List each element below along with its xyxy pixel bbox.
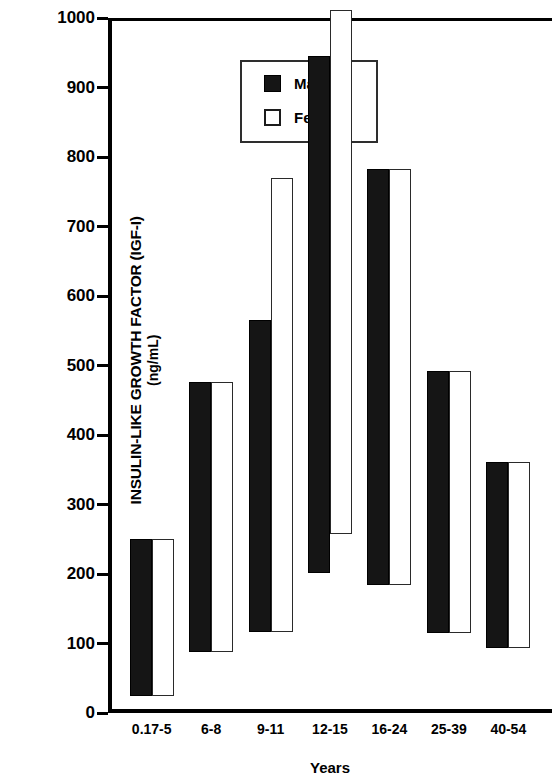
y-tick-label: 1000 xyxy=(57,8,95,28)
x-tick-label: 16-24 xyxy=(372,721,408,737)
legend-swatch-female-icon xyxy=(264,109,281,126)
y-tick-label: 900 xyxy=(67,78,95,98)
bar-female-9-11 xyxy=(271,178,293,632)
x-tick-label: 12-15 xyxy=(312,721,348,737)
legend-swatch-male-icon xyxy=(264,75,281,92)
bar-male-6-8 xyxy=(189,382,211,652)
x-tick-label: 0.17-5 xyxy=(132,721,172,737)
y-tick-label: 200 xyxy=(67,564,95,584)
bar-male-40-54 xyxy=(486,462,508,648)
bar-female-16-24 xyxy=(389,169,411,585)
plot-area: 01002003004005006007008009001000 0.17-56… xyxy=(108,18,552,713)
y-tick-label: 500 xyxy=(67,356,95,376)
y-tick-label: 300 xyxy=(67,495,95,515)
y-tick-mark xyxy=(97,434,108,437)
bar-male-0.17-5 xyxy=(130,539,152,695)
bar-female-0.17-5 xyxy=(152,539,174,695)
bar-female-25-39 xyxy=(449,371,471,633)
bar-male-9-11 xyxy=(249,320,271,631)
x-tick-label: 25-39 xyxy=(431,721,467,737)
y-tick-mark xyxy=(97,503,108,506)
bar-female-40-54 xyxy=(508,462,530,648)
y-tick-mark xyxy=(97,86,108,89)
y-tick-mark xyxy=(97,156,108,159)
y-tick-label: 700 xyxy=(67,217,95,237)
x-tick-label: 6-8 xyxy=(201,721,221,737)
y-tick-label: 0 xyxy=(86,703,95,723)
bar-male-12-15 xyxy=(308,56,330,572)
bar-male-25-39 xyxy=(427,371,449,633)
y-tick-mark xyxy=(97,364,108,367)
x-axis-line xyxy=(108,709,552,713)
bar-female-12-15 xyxy=(330,10,352,535)
y-tick-label: 400 xyxy=(67,425,95,445)
y-tick-mark xyxy=(97,17,108,20)
x-tick-label: 40-54 xyxy=(490,721,526,737)
y-tick-mark xyxy=(97,573,108,576)
bar-male-16-24 xyxy=(367,169,389,585)
y-tick-label: 100 xyxy=(67,634,95,654)
y-tick-mark xyxy=(97,712,108,715)
y-tick-label: 600 xyxy=(67,286,95,306)
x-tick-label: 9-11 xyxy=(257,721,284,737)
y-tick-mark xyxy=(97,295,108,298)
y-tick-mark xyxy=(97,225,108,228)
y-axis-line xyxy=(108,18,112,713)
y-tick-label: 800 xyxy=(67,147,95,167)
y-axis-title: INSULIN-LIKE GROWTH FACTOR (IGF-I) (ng/m… xyxy=(0,0,56,720)
bar-female-6-8 xyxy=(211,382,233,652)
y-tick-mark xyxy=(97,642,108,645)
x-axis-title: Years xyxy=(108,759,552,776)
